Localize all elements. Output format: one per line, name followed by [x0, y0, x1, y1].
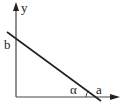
coordinate-diagram: y b α a — [0, 0, 122, 109]
x-axis-arrow-icon — [110, 94, 120, 100]
x-intercept-label: a — [96, 82, 102, 97]
intercept-line — [7, 32, 101, 101]
angle-label: α — [70, 82, 77, 97]
y-axis-label: y — [21, 0, 28, 15]
y-intercept-label: b — [4, 37, 11, 52]
y-axis-arrow-icon — [13, 2, 19, 11]
angle-arc — [86, 91, 89, 97]
